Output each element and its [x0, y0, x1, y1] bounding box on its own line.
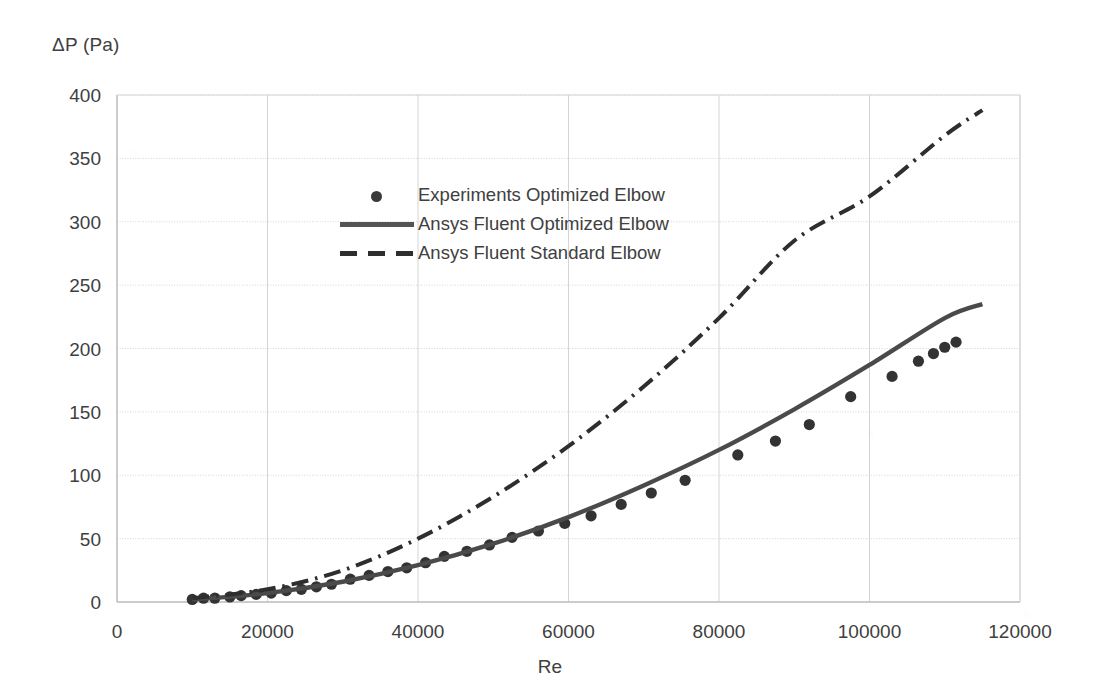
legend-item-standard: Ansys Fluent Standard Elbow — [338, 238, 669, 267]
data-point — [646, 487, 657, 498]
data-point — [616, 499, 627, 510]
data-point — [804, 419, 815, 430]
data-point — [928, 348, 939, 359]
legend-item-label: Ansys Fluent Standard Elbow — [416, 242, 661, 264]
solid-line-marker-icon — [338, 213, 416, 235]
legend-item-experiments: Experiments Optimized Elbow — [338, 180, 669, 209]
data-point — [950, 337, 961, 348]
y-tick-label: 200 — [41, 340, 101, 359]
x-tick-label: 80000 — [693, 622, 746, 641]
legend-item-label: Experiments Optimized Elbow — [416, 184, 665, 206]
dot-marker-icon — [338, 184, 416, 206]
x-tick-label: 0 — [112, 622, 123, 641]
chart-legend: Experiments Optimized Elbow Ansys Fluent… — [338, 180, 669, 267]
legend-item-optimized: Ansys Fluent Optimized Elbow — [338, 209, 669, 238]
dashed-line-marker-icon — [338, 242, 416, 264]
y-axis-title: ΔP (Pa) — [52, 34, 120, 56]
data-point — [913, 356, 924, 367]
y-tick-label: 0 — [41, 593, 101, 612]
data-point — [732, 449, 743, 460]
y-tick-label: 50 — [41, 530, 101, 549]
x-tick-label: 60000 — [542, 622, 595, 641]
plot-canvas — [0, 0, 1116, 699]
data-point — [845, 391, 856, 402]
y-tick-label: 150 — [41, 403, 101, 422]
data-point — [770, 435, 781, 446]
y-tick-label: 100 — [41, 466, 101, 485]
x-tick-label: 40000 — [392, 622, 445, 641]
data-point — [939, 342, 950, 353]
x-tick-label: 120000 — [988, 622, 1051, 641]
legend-item-label: Ansys Fluent Optimized Elbow — [416, 213, 669, 235]
x-tick-label: 100000 — [838, 622, 901, 641]
chart-figure: ΔP (Pa) 050100150200250300350400 0200004… — [0, 0, 1116, 699]
y-tick-label: 350 — [41, 149, 101, 168]
y-tick-label: 300 — [41, 213, 101, 232]
x-tick-label: 20000 — [241, 622, 294, 641]
data-point — [680, 475, 691, 486]
data-point-group — [187, 337, 962, 606]
x-axis-title: Re — [0, 656, 1116, 678]
x-axis-title-text: Re — [538, 656, 562, 677]
y-tick-label: 400 — [41, 86, 101, 105]
y-tick-label: 250 — [41, 276, 101, 295]
data-point — [886, 371, 897, 382]
